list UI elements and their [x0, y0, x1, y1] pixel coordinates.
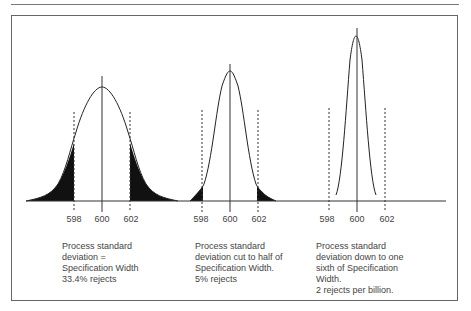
caption-line: Process standard [62, 241, 139, 252]
panel-1-chart [26, 76, 178, 212]
caption-line: sixth of Specification [316, 263, 404, 274]
caption-line: 5% rejects [195, 274, 283, 285]
panel-2-tick-602: 602 [251, 214, 266, 224]
panel-1-tick-602: 602 [123, 214, 138, 224]
panel-2-tick-598: 598 [193, 214, 208, 224]
panel-2-caption: Process standard deviation cut to half o… [195, 241, 283, 285]
panel-2-tick-600: 600 [222, 214, 237, 224]
panel-1-tick-600: 600 [94, 214, 109, 224]
panel-1-tick-598: 598 [66, 214, 81, 224]
caption-line: Specification Width [62, 263, 139, 274]
caption-line: Specification Width. [195, 263, 283, 274]
panel-3-tick-598: 598 [319, 214, 334, 224]
panel-2-bell-curve [190, 71, 276, 201]
caption-line: Process standard [195, 241, 283, 252]
panel-3-caption: Process standard deviation down to one s… [316, 241, 404, 296]
caption-line: deviation = [62, 252, 139, 263]
caption-line: Process standard [316, 241, 404, 252]
panel-2-right-tail [257, 186, 276, 201]
panel-3-tick-602: 602 [379, 214, 394, 224]
caption-line: deviation cut to half of [195, 252, 283, 263]
panel-1-caption: Process standard deviation = Specificati… [62, 241, 139, 285]
panel-2-chart [190, 64, 276, 212]
caption-line: 33.4% rejects [62, 274, 139, 285]
panel-3-tick-600: 600 [349, 214, 364, 224]
caption-line: Width. [316, 274, 404, 285]
panel-3-bell-curve [336, 36, 376, 195]
caption-line: 2 rejects per billion. [316, 285, 404, 296]
caption-line: deviation down to one [316, 252, 404, 263]
panel-3-chart [329, 28, 385, 212]
